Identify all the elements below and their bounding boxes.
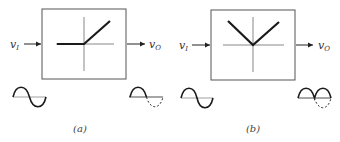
panel-a: vI vO (a) bbox=[10, 9, 163, 134]
output-dashed-negative-a bbox=[147, 97, 164, 107]
caption-a: (a) bbox=[73, 123, 87, 134]
panel-b: vI vO (b) bbox=[179, 10, 331, 134]
caption-b: (b) bbox=[246, 123, 260, 134]
rectifier-diagram: vI vO (a) vI vO (b) bbox=[0, 0, 340, 142]
output-label-b: vO bbox=[318, 39, 330, 53]
output-dashed-negative-b bbox=[315, 98, 332, 108]
output-fullwave-b bbox=[298, 88, 331, 98]
input-label-b: vI bbox=[179, 39, 188, 53]
output-label-a: vO bbox=[149, 38, 161, 52]
input-label-a: vI bbox=[10, 38, 19, 52]
output-halfwave-a bbox=[130, 87, 147, 97]
